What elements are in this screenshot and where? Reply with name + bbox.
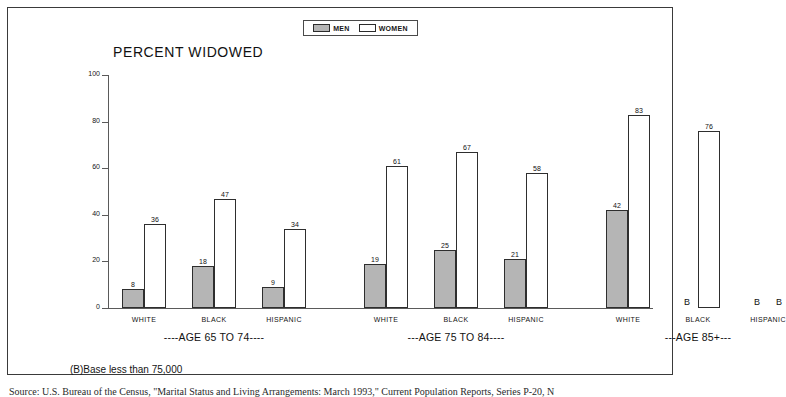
category-label-white-g2: WHITE bbox=[616, 316, 641, 323]
y-tick-label-20: 20 bbox=[92, 256, 100, 263]
bar-women-white-g0: 36 bbox=[144, 224, 166, 308]
category-label-black-g1: BLACK bbox=[444, 316, 469, 323]
bar-value-women-black-g0: 47 bbox=[221, 191, 229, 198]
bar-value-women-white-g1: 61 bbox=[393, 158, 401, 165]
category-label-hispanic-g0: HISPANIC bbox=[266, 316, 302, 323]
bar-men-hispanic-g1: 21 bbox=[504, 259, 526, 308]
bar-value-men-white-g0: 8 bbox=[131, 281, 135, 288]
bar-men-hispanic-g0: 9 bbox=[262, 287, 284, 308]
legend-swatch-men-icon bbox=[313, 24, 330, 32]
bar-men-white-g1: 19 bbox=[364, 264, 386, 308]
bar-value-women-white-g2: 83 bbox=[635, 107, 643, 114]
bar-men-black-g1: 25 bbox=[434, 250, 456, 308]
chart-legend: MEN WOMEN bbox=[303, 20, 418, 36]
bar-women-white-g2: 83 bbox=[628, 115, 650, 308]
legend-swatch-women-icon bbox=[359, 24, 376, 32]
legend-label-women: WOMEN bbox=[379, 25, 408, 32]
y-tick-label-40: 40 bbox=[92, 210, 100, 217]
bar-women-black-g1: 67 bbox=[456, 152, 478, 308]
bar-value-women-hispanic-g1: 58 bbox=[533, 165, 541, 172]
bar-value-men-hispanic-g1: 21 bbox=[511, 251, 519, 258]
y-tick-label-60: 60 bbox=[92, 163, 100, 170]
bar-value-men-black-g1: 25 bbox=[441, 242, 449, 249]
y-tick-label-0: 0 bbox=[96, 303, 100, 310]
legend-entry-women: WOMEN bbox=[359, 24, 408, 32]
bar-value-women-white-g0: 36 bbox=[151, 216, 159, 223]
bar-value-women-black-g1: 67 bbox=[463, 144, 471, 151]
bar-value-women-black-g2: 76 bbox=[705, 123, 713, 130]
group-label-0: ----AGE 65 TO 74---- bbox=[164, 331, 264, 343]
category-label-black-g2: BLACK bbox=[686, 316, 711, 323]
bar-value-men-black-g0: 18 bbox=[199, 258, 207, 265]
bar-women-black-g0: 47 bbox=[214, 199, 236, 309]
legend-entry-men: MEN bbox=[313, 24, 349, 32]
source-citation: Source: U.S. Bureau of the Census, "Mari… bbox=[9, 386, 681, 397]
bar-suppressed-men-black-g2: B bbox=[684, 297, 690, 307]
bar-men-white-g0: 8 bbox=[122, 289, 144, 308]
bar-suppressed-men-hispanic-g2: B bbox=[754, 297, 760, 307]
legend-label-men: MEN bbox=[333, 25, 349, 32]
figure-frame: MEN WOMEN PERCENT WIDOWED 100 80 60 40 bbox=[7, 7, 673, 375]
x-axis-line bbox=[108, 308, 653, 309]
category-label-black-g0: BLACK bbox=[202, 316, 227, 323]
bar-value-men-white-g1: 19 bbox=[371, 256, 379, 263]
chart-title: PERCENT WIDOWED bbox=[113, 44, 263, 60]
category-label-hispanic-g2: HISPANIC bbox=[750, 316, 786, 323]
category-label-white-g0: WHITE bbox=[132, 316, 157, 323]
group-label-2: ---AGE 85+--- bbox=[665, 331, 731, 343]
footnote: (B)Base less than 75,000 bbox=[70, 364, 182, 375]
bar-value-women-hispanic-g0: 34 bbox=[291, 221, 299, 228]
y-tick-label-80: 80 bbox=[92, 117, 100, 124]
group-label-1: ---AGE 75 TO 84---- bbox=[408, 331, 505, 343]
category-label-hispanic-g1: HISPANIC bbox=[508, 316, 544, 323]
plot-area: 100 80 60 40 20 0 8361847934196125672158… bbox=[108, 75, 653, 308]
bar-women-hispanic-g1: 58 bbox=[526, 173, 548, 308]
y-tick-label-100: 100 bbox=[88, 70, 100, 77]
bar-value-men-white-g2: 42 bbox=[613, 202, 621, 209]
bar-men-black-g0: 18 bbox=[192, 266, 214, 308]
category-label-white-g1: WHITE bbox=[374, 316, 399, 323]
bar-women-white-g1: 61 bbox=[386, 166, 408, 308]
bar-men-white-g2: 42 bbox=[606, 210, 628, 308]
bar-suppressed-women-hispanic-g2: B bbox=[776, 297, 782, 307]
bar-women-hispanic-g0: 34 bbox=[284, 229, 306, 308]
bar-value-men-hispanic-g0: 9 bbox=[271, 279, 275, 286]
bar-women-black-g2: 76 bbox=[698, 131, 720, 308]
y-axis-line bbox=[108, 75, 109, 308]
